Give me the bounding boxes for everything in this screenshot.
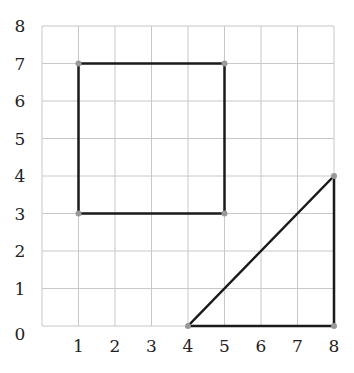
x-tick-label: 6: [256, 336, 267, 356]
y-tick-label: 3: [15, 204, 26, 224]
y-tick-label: 2: [15, 241, 26, 261]
x-tick-label: 7: [292, 336, 303, 356]
x-tick-label: 2: [110, 336, 121, 356]
y-tick-label: 1: [15, 279, 26, 299]
x-axis-ticks: 12345678: [73, 336, 339, 356]
x-tick-label: 4: [183, 336, 194, 356]
x-tick-label: 8: [329, 336, 340, 356]
coordinate-grid: 12345678 012345678: [0, 0, 354, 373]
vertex-point: [76, 61, 82, 67]
y-axis-ticks: 012345678: [15, 16, 26, 344]
y-tick-label: 7: [15, 54, 26, 74]
y-tick-label: 0: [15, 324, 26, 344]
vertex-point: [185, 323, 191, 329]
vertex-point: [222, 211, 228, 217]
y-tick-label: 6: [15, 91, 26, 111]
y-tick-label: 4: [15, 166, 26, 186]
x-tick-label: 3: [146, 336, 157, 356]
vertex-point: [331, 173, 337, 179]
x-tick-label: 1: [73, 336, 84, 356]
y-tick-label: 8: [15, 16, 26, 36]
y-tick-label: 5: [15, 129, 26, 149]
gridlines: [42, 26, 334, 326]
x-tick-label: 5: [219, 336, 230, 356]
vertex-point: [331, 323, 337, 329]
vertex-point: [76, 211, 82, 217]
vertex-point: [222, 61, 228, 67]
